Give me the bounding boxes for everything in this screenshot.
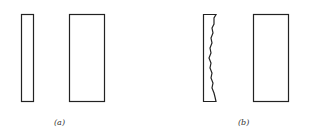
figure-diagram [0,0,310,133]
thick-plate-b [254,15,289,102]
thick-plate-a [70,15,105,102]
panel-a [22,15,105,102]
thin-plate-a [22,15,34,102]
panel-b [204,15,289,102]
panel-a-label: (a) [54,118,65,127]
rough-plate-b [204,15,217,102]
panel-b-label: (b) [238,118,249,127]
